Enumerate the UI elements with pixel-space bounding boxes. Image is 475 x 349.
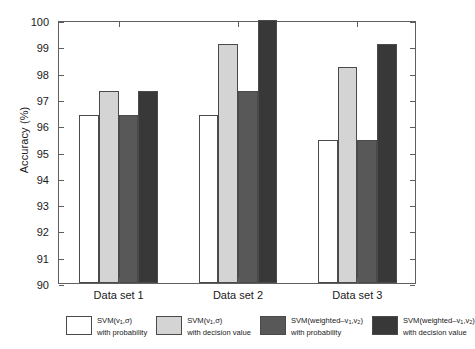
chart-legend: SVM(v1,σ)with probabilitySVM(v1,σ)with d… xyxy=(66,316,432,344)
y-tick-mark-right xyxy=(410,232,415,233)
legend-swatch xyxy=(260,316,286,335)
legend-item: SVM(v1,σ)with decision value xyxy=(156,316,251,337)
y-tick-mark-right xyxy=(410,48,415,49)
bar xyxy=(99,91,119,283)
y-tick-label: 93 xyxy=(37,200,49,212)
legend-label: SVM(v1,σ)with decision value xyxy=(187,316,251,337)
bar xyxy=(119,115,139,283)
y-tick-label: 91 xyxy=(37,253,49,265)
x-tick-mark xyxy=(238,278,239,283)
bar xyxy=(258,20,278,283)
legend-label: SVM(weighted–v1,v2)with probability xyxy=(291,316,363,337)
legend-item: SVM(weighted–v1,v2)with probability xyxy=(260,316,363,337)
y-tick-label: 99 xyxy=(37,42,49,54)
bar xyxy=(218,44,238,283)
bar xyxy=(318,140,338,283)
legend-item: SVM(weighted–v1,v2)with decision value xyxy=(372,316,475,337)
y-tick-mark-right xyxy=(410,22,415,23)
bars-layer xyxy=(59,22,415,283)
y-tick-mark xyxy=(59,206,64,207)
y-tick-label: 94 xyxy=(37,174,49,186)
bar xyxy=(138,91,158,283)
x-tick-label: Data set 3 xyxy=(332,289,382,301)
y-tick-mark xyxy=(59,22,64,23)
x-tick-label: Data set 1 xyxy=(94,289,144,301)
legend-swatch xyxy=(156,316,182,335)
legend-swatch xyxy=(66,316,92,335)
y-tick-mark-right xyxy=(410,285,415,286)
x-tick-mark-top xyxy=(357,22,358,27)
y-tick-label: 95 xyxy=(37,148,49,160)
y-tick-label: 98 xyxy=(37,69,49,81)
x-tick-mark-top xyxy=(238,22,239,27)
y-tick-mark xyxy=(59,75,64,76)
y-tick-mark xyxy=(59,154,64,155)
y-tick-mark-right xyxy=(410,101,415,102)
y-tick-label: 90 xyxy=(37,279,49,291)
x-tick-mark xyxy=(119,278,120,283)
bar xyxy=(338,67,358,283)
y-axis-title: Accuracy (%) xyxy=(18,70,30,210)
y-tick-mark xyxy=(59,127,64,128)
bar xyxy=(357,140,377,283)
y-tick-mark xyxy=(59,259,64,260)
y-tick-mark xyxy=(59,101,64,102)
y-tick-mark-right xyxy=(410,259,415,260)
bar xyxy=(377,44,397,283)
bar xyxy=(79,115,99,283)
y-tick-mark xyxy=(59,48,64,49)
y-tick-mark xyxy=(59,285,64,286)
x-tick-mark xyxy=(357,278,358,283)
legend-label: SVM(weighted–v1,v2)with decision value xyxy=(403,316,475,337)
y-tick-mark-right xyxy=(410,180,415,181)
bar xyxy=(199,115,219,283)
legend-swatch xyxy=(372,316,398,335)
legend-label: SVM(v1,σ)with probability xyxy=(97,316,147,337)
bar xyxy=(238,91,258,283)
y-tick-mark xyxy=(59,232,64,233)
y-tick-mark-right xyxy=(410,154,415,155)
y-tick-label: 97 xyxy=(37,95,49,107)
y-tick-mark-right xyxy=(410,206,415,207)
y-tick-label: 100 xyxy=(31,16,49,28)
y-tick-mark xyxy=(59,180,64,181)
y-tick-mark-right xyxy=(410,127,415,128)
y-tick-label: 96 xyxy=(37,121,49,133)
legend-item: SVM(v1,σ)with probability xyxy=(66,316,147,337)
plot-area: 90919293949596979899100 Data set 1Data s… xyxy=(58,21,416,284)
y-tick-label: 92 xyxy=(37,226,49,238)
x-tick-label: Data set 2 xyxy=(213,289,263,301)
y-tick-mark-right xyxy=(410,75,415,76)
x-tick-mark-top xyxy=(119,22,120,27)
